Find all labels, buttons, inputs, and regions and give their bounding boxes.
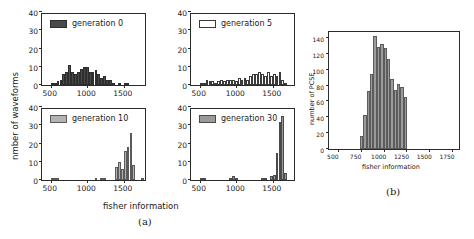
xtick-label: 500 xyxy=(192,184,206,193)
xtick-label: 750 xyxy=(350,153,361,160)
xtick-label: 1000 xyxy=(371,153,386,160)
subplot-generation-5: generation 5 xyxy=(190,13,295,86)
ytick-label: 0 xyxy=(18,177,38,186)
xtick-label: 1500 xyxy=(113,184,132,193)
ytick-label: 0 xyxy=(312,147,324,154)
histogram-bar xyxy=(127,83,130,85)
panel-a-xlabel: fisher information xyxy=(103,201,179,211)
xtick-label: 1000 xyxy=(226,184,245,193)
legend-label: generation 0 xyxy=(72,19,123,28)
panel-b-caption: (b) xyxy=(386,186,400,197)
ytick-label: 140 xyxy=(309,36,324,43)
ytick-label: 30 xyxy=(18,122,38,131)
histogram-bar xyxy=(284,173,287,180)
histogram-bar xyxy=(141,178,144,180)
ytick-label: 0 xyxy=(167,82,187,91)
legend-swatch-icon xyxy=(50,20,67,28)
panel-b: 0 20 40 60 80 100 120 140 500 750 1000 1… xyxy=(300,0,474,239)
xtick-label: 500 xyxy=(43,184,57,193)
histogram-bar xyxy=(112,83,115,85)
xtick-label: 1500 xyxy=(262,184,281,193)
histogram-bar xyxy=(284,83,287,85)
ytick-label: 20 xyxy=(312,131,324,138)
panel-b-ylabel: number of PCSE xyxy=(308,73,316,125)
ytick-label: 0 xyxy=(18,82,38,91)
xtick-label: 1250 xyxy=(394,153,409,160)
xtick-label: 500 xyxy=(327,153,338,160)
histogram-bar xyxy=(404,97,407,149)
ytick-label: 40 xyxy=(18,9,38,18)
subplot-pcse-plot-area xyxy=(329,32,459,149)
histogram-bar xyxy=(203,178,206,180)
ytick-label: 40 xyxy=(167,9,187,18)
legend-swatch-icon xyxy=(199,20,216,28)
ytick-label: 20 xyxy=(167,140,187,149)
xtick-label: 1500 xyxy=(262,89,281,98)
ytick-label: 30 xyxy=(167,27,187,36)
histogram-bar xyxy=(103,178,106,180)
subplot-generation-10: generation 10 xyxy=(41,108,146,181)
ytick-label: 10 xyxy=(167,63,187,72)
ytick-label: 30 xyxy=(18,27,38,36)
xtick-label: 500 xyxy=(192,89,206,98)
legend-generation-5: generation 5 xyxy=(199,19,272,28)
ytick-label: 20 xyxy=(18,140,38,149)
ytick-label: 0 xyxy=(167,177,187,186)
xtick-label: 1000 xyxy=(77,184,96,193)
ytick-label: 10 xyxy=(18,63,38,72)
histogram-bar xyxy=(118,83,121,85)
panel-a: nmber of waveforms fisher information (a… xyxy=(0,0,300,239)
ytick-label: 120 xyxy=(309,52,324,59)
ytick-label: 40 xyxy=(167,104,187,113)
histogram-bar xyxy=(132,165,135,180)
histogram-bar xyxy=(95,178,98,180)
legend-generation-10: generation 10 xyxy=(50,114,128,123)
ytick-label: 20 xyxy=(18,45,38,54)
subplot-pcse xyxy=(328,31,460,150)
legend-generation-0: generation 0 xyxy=(50,19,123,28)
xtick-label: 1750 xyxy=(439,153,454,160)
legend-label: generation 10 xyxy=(72,114,128,123)
subplot-generation-0: generation 0 xyxy=(41,13,146,86)
ytick-label: 10 xyxy=(167,158,187,167)
legend-swatch-icon xyxy=(50,115,67,123)
legend-label: generation 30 xyxy=(221,114,277,123)
figure-root: nmber of waveforms fisher information (a… xyxy=(0,0,474,239)
xtick-label: 1000 xyxy=(226,89,245,98)
ytick-label: 30 xyxy=(167,122,187,131)
histogram-bar xyxy=(264,178,267,180)
histogram-bar xyxy=(57,178,60,180)
ytick-label: 20 xyxy=(167,45,187,54)
legend-label: generation 5 xyxy=(221,19,272,28)
xtick-label: 500 xyxy=(43,89,57,98)
panel-b-xlabel: fisher information xyxy=(362,163,420,171)
bars-pcse xyxy=(329,32,459,149)
xtick-label: 1500 xyxy=(417,153,432,160)
subplot-generation-30: generation 30 xyxy=(190,108,295,181)
histogram-bar xyxy=(281,116,284,180)
ytick-label: 40 xyxy=(18,104,38,113)
ytick-label: 10 xyxy=(18,158,38,167)
legend-swatch-icon xyxy=(199,115,216,123)
xtick-label: 1500 xyxy=(113,89,132,98)
xtick-label: 1000 xyxy=(77,89,96,98)
panel-a-caption: (a) xyxy=(138,216,152,227)
legend-generation-30: generation 30 xyxy=(199,114,277,123)
